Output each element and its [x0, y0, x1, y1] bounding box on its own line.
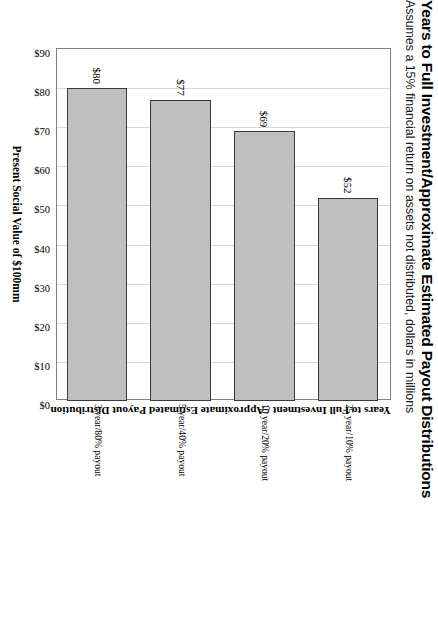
bar-value-label: $80: [91, 68, 103, 89]
bar-value-label: $69: [258, 111, 270, 132]
category-tick-label: 25 year/10% payout: [344, 404, 355, 481]
value-axis-title: Present Social Value of $100mm: [11, 48, 23, 400]
category-axis-title-text: Years to Full Investment / Approximate E…: [56, 405, 391, 417]
value-tick-label: $60: [34, 165, 50, 176]
category-tick-label: 3 year/80% payout: [92, 404, 103, 476]
value-tick-label: $0: [40, 400, 51, 411]
bar: [67, 88, 127, 401]
bar: [150, 100, 210, 401]
value-tick-label: $50: [34, 204, 50, 215]
bar-value-label: $52: [342, 177, 354, 198]
category-axis-title: Years to Full Investment / Approximate E…: [56, 404, 391, 420]
category-tick-label: 10 year/20% payout: [260, 404, 271, 481]
value-tick-label: $20: [34, 322, 50, 333]
value-tick-label: $40: [34, 244, 50, 255]
chart-subtitle: Assumes a 15% financial return on assets…: [402, 0, 417, 640]
chart-rotation-frame: Years to Full Investment/Approximate Est…: [0, 0, 438, 644]
value-tick-label: $30: [34, 283, 50, 294]
value-tick-label: $90: [34, 48, 50, 59]
bar: [318, 198, 378, 401]
plot-area: $80$77$69$52: [56, 48, 391, 400]
chart-title: Years to Full Investment/Approximate Est…: [419, 0, 436, 640]
value-tick-label: $80: [34, 87, 50, 98]
title-block: Years to Full Investment/Approximate Est…: [402, 0, 436, 640]
bar-value-label: $77: [175, 79, 187, 100]
bar: [234, 131, 294, 401]
value-tick-label: $10: [34, 361, 50, 372]
category-tick-label: 5 year/40% payout: [176, 404, 187, 476]
value-tick-label: $70: [34, 126, 50, 137]
